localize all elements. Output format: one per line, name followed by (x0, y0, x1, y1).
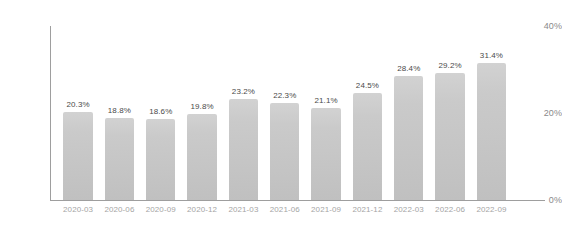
bar-slot: 18.8% (105, 26, 134, 200)
x-axis-line (50, 200, 545, 201)
bar-value-label: 20.3% (54, 100, 101, 109)
x-axis-tick-label: 2021-06 (261, 205, 308, 215)
plot-area: 20.3%18.8%18.6%19.8%23.2%22.3%21.1%24.5%… (51, 26, 545, 200)
bar[interactable] (105, 118, 134, 200)
x-axis-tick-label: 2022-03 (385, 205, 432, 215)
bar-chart: 0%20%40% 20.3%18.8%18.6%19.8%23.2%22.3%2… (0, 0, 562, 237)
bar-slot: 24.5% (353, 26, 382, 200)
bar-slot: 31.4% (477, 26, 506, 200)
bar[interactable] (435, 73, 464, 200)
bar[interactable] (187, 114, 216, 200)
bar-value-label: 22.3% (261, 91, 308, 100)
bar-value-label: 19.8% (178, 102, 225, 111)
x-axis-tick-label: 2022-06 (426, 205, 473, 215)
bar[interactable] (229, 99, 258, 200)
bar-slot: 23.2% (229, 26, 258, 200)
bar-slot: 21.1% (311, 26, 340, 200)
bar-value-label: 24.5% (344, 81, 391, 90)
bar[interactable] (63, 112, 92, 200)
bar[interactable] (270, 103, 299, 200)
x-axis-tick-label: 2020-03 (54, 205, 101, 215)
bar-value-label: 23.2% (220, 87, 267, 96)
x-axis-tick-label: 2021-12 (344, 205, 391, 215)
bar[interactable] (353, 93, 382, 200)
bar-value-label: 28.4% (385, 64, 432, 73)
bar-slot: 29.2% (435, 26, 464, 200)
x-axis-tick-label: 2021-03 (220, 205, 267, 215)
x-axis-tick-label: 2020-06 (96, 205, 143, 215)
bar-slot: 20.3% (63, 26, 92, 200)
bar-value-label: 31.4% (468, 51, 515, 60)
bar-slot: 19.8% (187, 26, 216, 200)
bar-value-label: 21.1% (302, 96, 349, 105)
x-axis-tick-label: 2022-09 (468, 205, 515, 215)
bar-slot: 22.3% (270, 26, 299, 200)
x-axis-tick-label: 2021-09 (302, 205, 349, 215)
bar-value-label: 18.6% (137, 107, 184, 116)
bar-slot: 18.6% (146, 26, 175, 200)
bar-value-label: 18.8% (96, 106, 143, 115)
x-axis-tick-label: 2020-09 (137, 205, 184, 215)
bar-slot: 28.4% (394, 26, 423, 200)
bar-value-label: 29.2% (426, 61, 473, 70)
bar[interactable] (146, 119, 175, 200)
bar[interactable] (477, 63, 506, 200)
bar[interactable] (311, 108, 340, 200)
x-axis-tick-label: 2020-12 (178, 205, 225, 215)
bar[interactable] (394, 76, 423, 200)
